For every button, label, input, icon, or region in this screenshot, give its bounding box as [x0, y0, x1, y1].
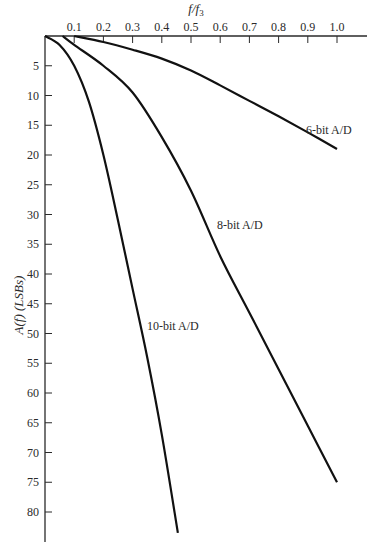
- x-tick-label: 0.1: [67, 20, 82, 34]
- series-label-6bit: 6-bit A/D: [306, 123, 352, 137]
- x-tick-label: 0.3: [125, 20, 140, 34]
- y-tick-label: 40: [27, 267, 39, 281]
- y-axis: 5101520253035404550556065707580: [27, 36, 52, 542]
- y-tick-label: 5: [33, 59, 39, 73]
- y-tick-label: 50: [27, 327, 39, 341]
- y-ticks: 5101520253035404550556065707580: [27, 59, 52, 519]
- series-line-8-bit-a-d: [63, 36, 337, 482]
- series-label-8bit: 8-bit A/D: [217, 218, 263, 232]
- series-label-10bit: 10-bit A/D: [147, 319, 199, 333]
- y-tick-label: 30: [27, 208, 39, 222]
- series-line-10-bit-a-d: [45, 36, 178, 533]
- x-tick-label: 0.8: [271, 20, 286, 34]
- y-tick-label: 80: [27, 505, 39, 519]
- y-tick-label: 55: [27, 356, 39, 370]
- y-tick-label: 25: [27, 178, 39, 192]
- x-tick-label: 0.7: [242, 20, 257, 34]
- y-tick-label: 60: [27, 386, 39, 400]
- x-tick-label: 0.2: [96, 20, 111, 34]
- y-tick-label: 20: [27, 148, 39, 162]
- y-tick-label: 75: [27, 475, 39, 489]
- x-tick-label: 1.0: [330, 20, 345, 34]
- x-ticks: 0.10.20.30.40.50.60.70.80.91.0: [67, 20, 345, 43]
- x-tick-label: 0.6: [213, 20, 228, 34]
- y-axis-title: A(f) (LSBs): [11, 276, 26, 336]
- y-tick-label: 35: [27, 237, 39, 251]
- series-lines: [45, 36, 337, 533]
- y-tick-label: 10: [27, 89, 39, 103]
- chart: f/f3 0.10.20.30.40.50.60.70.80.91.0 5101…: [0, 0, 378, 550]
- y-tick-label: 15: [27, 118, 39, 132]
- x-tick-label: 0.4: [154, 20, 169, 34]
- y-tick-label: 45: [27, 297, 39, 311]
- y-tick-label: 70: [27, 446, 39, 460]
- x-axis-title: f/f3: [188, 1, 204, 18]
- x-tick-label: 0.9: [300, 20, 315, 34]
- x-tick-label: 0.5: [184, 20, 199, 34]
- series-line-6-bit-a-d: [74, 36, 337, 149]
- y-tick-label: 65: [27, 416, 39, 430]
